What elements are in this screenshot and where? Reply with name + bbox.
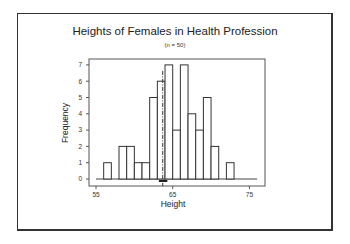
x-tick-label: 75 — [246, 191, 254, 198]
histogram-bar — [211, 146, 219, 179]
x-axis-label: Height — [161, 199, 186, 209]
histogram-bar — [134, 163, 142, 179]
y-tick-label: 7 — [78, 61, 82, 68]
x-tick-label: 65 — [169, 191, 177, 198]
x-tick-label: 55 — [92, 191, 100, 198]
histogram-bar — [173, 130, 181, 179]
y-tick-label: 3 — [78, 126, 82, 133]
histogram-bar — [142, 163, 150, 179]
histogram-bar — [188, 114, 196, 179]
y-tick-label: 4 — [78, 110, 82, 117]
y-tick-label: 0 — [78, 175, 82, 182]
histogram-plot: 01234567 556575 Height Frequency — [0, 0, 350, 244]
y-axis: 01234567 — [78, 61, 89, 182]
y-tick-label: 1 — [78, 159, 82, 166]
y-tick-label: 5 — [78, 94, 82, 101]
histogram-bar — [104, 163, 112, 179]
y-axis-label: Frequency — [60, 102, 70, 143]
x-axis: 556575 — [92, 179, 257, 198]
histogram-bars — [104, 65, 234, 179]
histogram-bar — [127, 146, 135, 179]
histogram-bar — [157, 81, 165, 179]
histogram-bar — [165, 65, 173, 179]
y-tick-label: 6 — [78, 78, 82, 85]
histogram-bar — [226, 163, 234, 179]
histogram-bar — [180, 65, 188, 179]
histogram-bar — [119, 146, 127, 179]
y-tick-label: 2 — [78, 143, 82, 150]
histogram-bar — [203, 98, 211, 180]
histogram-bar — [196, 130, 204, 179]
histogram-bar — [150, 98, 158, 180]
